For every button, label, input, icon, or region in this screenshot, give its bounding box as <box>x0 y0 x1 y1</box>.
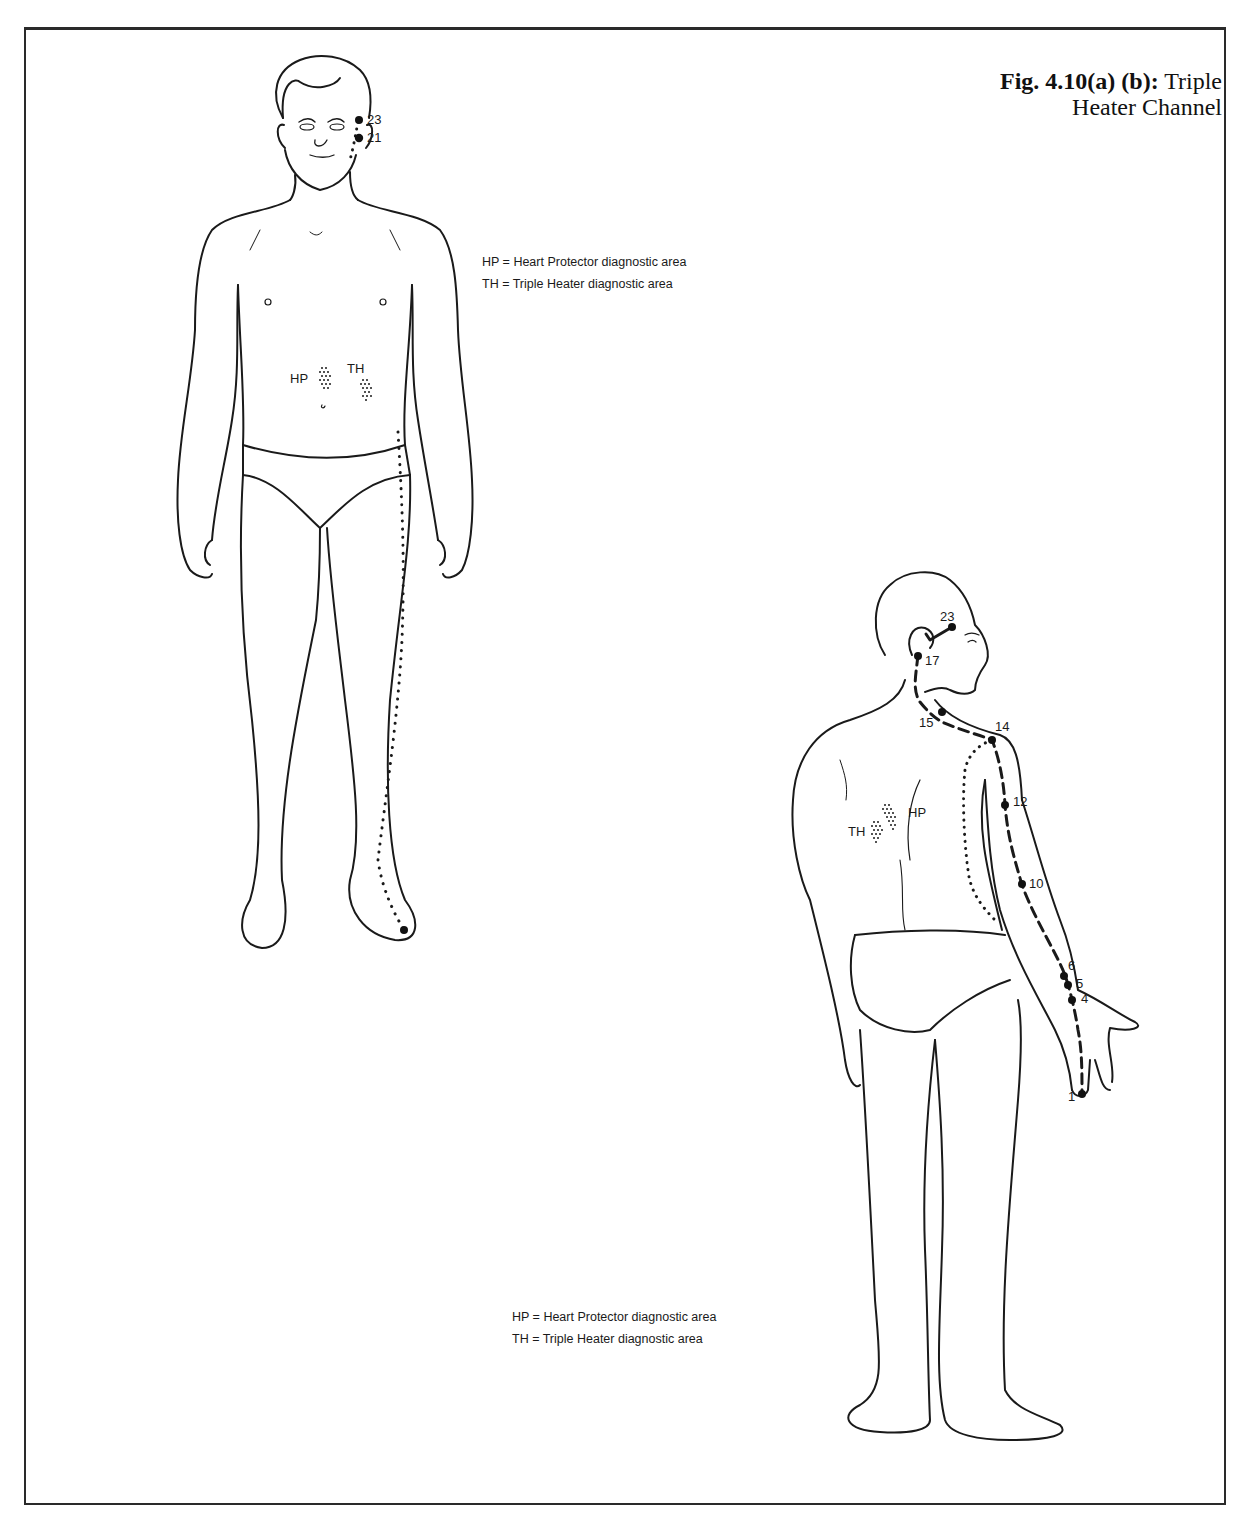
back-point-17-label: 17 <box>925 653 939 668</box>
front-hp-area <box>319 367 331 389</box>
back-acupoints <box>914 623 1086 1098</box>
front-point-21-marker <box>355 134 363 142</box>
back-point-17-marker <box>914 652 922 660</box>
front-point-21-label: 21 <box>367 130 381 145</box>
back-channel-path <box>915 627 1082 1094</box>
back-point-1-label: 1 <box>1068 1089 1075 1104</box>
back-point-14-marker <box>988 736 996 744</box>
back-body-figure <box>792 572 1138 1440</box>
front-channel-path <box>350 122 404 930</box>
front-point-foot-marker <box>400 926 408 934</box>
back-point-12-marker <box>1001 801 1009 809</box>
back-point-12-label: 12 <box>1013 794 1027 809</box>
back-point-23-label: 23 <box>940 609 954 624</box>
illustration-canvas: 23 21 HP TH 23 17 15 14 12 10 6 5 4 1 HP… <box>0 0 1238 1533</box>
back-diagnostic-areas <box>871 804 896 843</box>
back-point-4-label: 4 <box>1081 991 1088 1006</box>
front-point-23-label: 23 <box>367 112 381 127</box>
front-point-23-marker <box>355 116 363 124</box>
back-point-23-marker <box>948 623 956 631</box>
back-point-6-marker <box>1060 972 1068 980</box>
back-point-15-marker <box>938 708 946 716</box>
back-hp-area <box>882 804 896 830</box>
back-point-5-marker <box>1064 981 1072 989</box>
front-th-area <box>360 379 372 401</box>
back-th-area <box>871 821 883 843</box>
back-point-15-label: 15 <box>919 715 933 730</box>
back-point-10-marker <box>1018 880 1026 888</box>
front-hp-label: HP <box>290 371 308 386</box>
back-point-6-label: 6 <box>1068 958 1075 973</box>
back-point-4-marker <box>1068 996 1076 1004</box>
back-point-5-label: 5 <box>1076 976 1083 991</box>
front-th-label: TH <box>347 361 364 376</box>
back-th-label: TH <box>848 824 865 839</box>
back-hp-label: HP <box>908 805 926 820</box>
front-acupoints <box>355 116 408 934</box>
back-point-1-marker <box>1078 1090 1086 1098</box>
back-point-14-label: 14 <box>995 719 1009 734</box>
back-point-10-label: 10 <box>1029 876 1043 891</box>
front-body-figure <box>178 56 473 948</box>
